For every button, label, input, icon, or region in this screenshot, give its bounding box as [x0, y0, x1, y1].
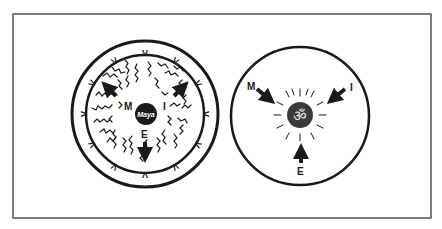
- label-i-left: I: [163, 101, 166, 112]
- label-m-right: M: [247, 81, 255, 92]
- om-symbol: ॐ: [293, 107, 307, 125]
- v-mark: V: [201, 111, 211, 117]
- arrow-from-i: [333, 89, 345, 99]
- label-i-right: I: [350, 82, 353, 93]
- label-e-right: E: [297, 166, 304, 177]
- v-mark: V: [142, 170, 148, 180]
- v-mark: V: [142, 48, 148, 58]
- label-m-left: M: [124, 101, 132, 112]
- left-figure-maya: V V V V V V V V V V V V: [72, 41, 218, 187]
- right-figure-om: ॐ M I E: [231, 47, 369, 185]
- arrow-from-m: [257, 89, 269, 99]
- v-mark: V: [79, 111, 89, 117]
- label-e-left: E: [141, 129, 148, 140]
- diagram-canvas: V V V V V V V V V V V V: [0, 0, 442, 229]
- arrow-upper-right: [174, 87, 183, 96]
- maya-label: Maya: [137, 111, 155, 119]
